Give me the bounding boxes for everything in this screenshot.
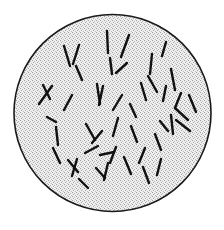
microscope-field-view [0,0,224,230]
microscopy-figure [0,0,224,230]
bacterium-rod [107,31,108,53]
